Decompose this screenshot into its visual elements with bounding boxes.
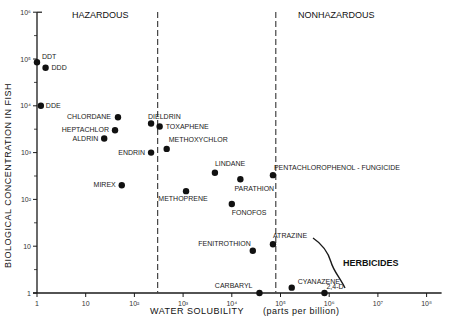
data-point: FONOFOS <box>229 201 267 216</box>
point-label: ALDRIN <box>73 135 99 142</box>
data-point: TOXAPHENE <box>156 123 209 130</box>
point-marker <box>101 135 107 141</box>
data-point: MIREX <box>94 181 125 188</box>
point-marker <box>250 248 256 254</box>
x-tick-label: 1 <box>35 300 39 307</box>
data-point: ENDRIN <box>118 149 154 156</box>
data-point: LINDANE <box>212 160 246 176</box>
axes <box>33 12 442 297</box>
data-point: CHLORDANE <box>67 113 121 120</box>
threshold-lines <box>158 12 276 293</box>
data-point: METHOXYCHLOR <box>163 136 227 152</box>
point-label: PARATHION <box>234 185 274 192</box>
y-tick-label: 10² <box>21 196 32 203</box>
point-label: LINDANE <box>215 160 246 167</box>
x-tick-label: 10⁷ <box>373 300 384 307</box>
point-marker <box>148 149 154 155</box>
point-marker <box>34 59 40 65</box>
point-label: FENITROTHION <box>198 240 251 247</box>
data-point: HEPTACHLOR <box>62 126 119 133</box>
point-marker <box>38 103 44 109</box>
point-label: METHOPRENE <box>158 195 208 202</box>
point-marker <box>156 123 162 129</box>
x-axis-title: WATER SOLUBILITY <box>150 306 244 316</box>
data-point: PENTACHLOROPHENOL - FUNGICIDE <box>270 164 401 178</box>
point-marker <box>148 120 154 126</box>
point-label: HEPTACHLOR <box>62 126 109 133</box>
point-label: DDE <box>46 102 61 109</box>
y-tick-label: 10⁴ <box>20 102 31 109</box>
data-point: PARATHION <box>234 176 274 192</box>
data-point: 2,4-D <box>321 283 343 296</box>
x-axis-units: (parts per billion) <box>263 306 340 316</box>
point-label: ENDRIN <box>118 149 145 156</box>
point-label: PENTACHLOROPHENOL - FUNGICIDE <box>274 164 400 171</box>
herbicides-label: HERBICIDES <box>343 258 399 268</box>
point-marker <box>256 290 262 296</box>
x-tick-label: 10⁸ <box>421 300 432 307</box>
point-marker <box>115 114 121 120</box>
point-label: TOXAPHENE <box>166 123 209 130</box>
data-point: CARBARYL <box>215 282 263 296</box>
data-point: METHOPRENE <box>158 188 208 202</box>
point-marker <box>42 65 48 71</box>
point-marker <box>270 172 276 178</box>
point-marker <box>212 170 218 176</box>
x-tick-label: 10 <box>82 300 90 307</box>
x-tick-label: 10² <box>129 300 140 307</box>
point-label: 2,4-D <box>326 283 343 290</box>
point-label: CARBARYL <box>215 282 253 289</box>
data-point: DDE <box>38 102 61 109</box>
point-marker <box>183 188 189 194</box>
point-marker <box>289 284 295 290</box>
scatter-chart: 11010²10³10⁴10⁵10⁶11010²10³10⁴10⁵10⁶10⁷1… <box>0 0 449 323</box>
point-marker <box>321 290 327 296</box>
y-tick-label: 10 <box>23 243 31 250</box>
y-tick-label: 10⁵ <box>20 56 31 63</box>
point-label: DDT <box>42 53 57 60</box>
data-point: FENITROTHION <box>198 240 256 254</box>
y-tick-label: 10³ <box>21 149 32 156</box>
point-label: MIREX <box>94 181 117 188</box>
y-tick-label: 10⁶ <box>20 9 31 16</box>
point-marker <box>119 182 125 188</box>
y-tick-label: 1 <box>27 290 31 297</box>
data-point: DDD <box>42 64 66 71</box>
hazardous-label: HAZARDOUS <box>72 10 129 20</box>
data-point: ALDRIN <box>73 135 108 142</box>
point-marker <box>163 146 169 152</box>
point-marker <box>229 201 235 207</box>
point-label: FONOFOS <box>232 209 267 216</box>
point-marker <box>270 241 276 247</box>
y-axis-title: BIOLOGICAL CONCENTRATION IN FISH <box>3 83 13 268</box>
point-label: CHLORDANE <box>67 113 111 120</box>
point-marker <box>112 127 118 133</box>
point-label: METHOXYCHLOR <box>169 136 228 143</box>
point-label: ATRAZINE <box>273 232 307 239</box>
point-label: DDD <box>52 64 67 71</box>
point-marker <box>237 176 243 182</box>
nonhazardous-label: NONHAZARDOUS <box>298 10 375 20</box>
point-label: DIELDRIN <box>148 113 181 120</box>
